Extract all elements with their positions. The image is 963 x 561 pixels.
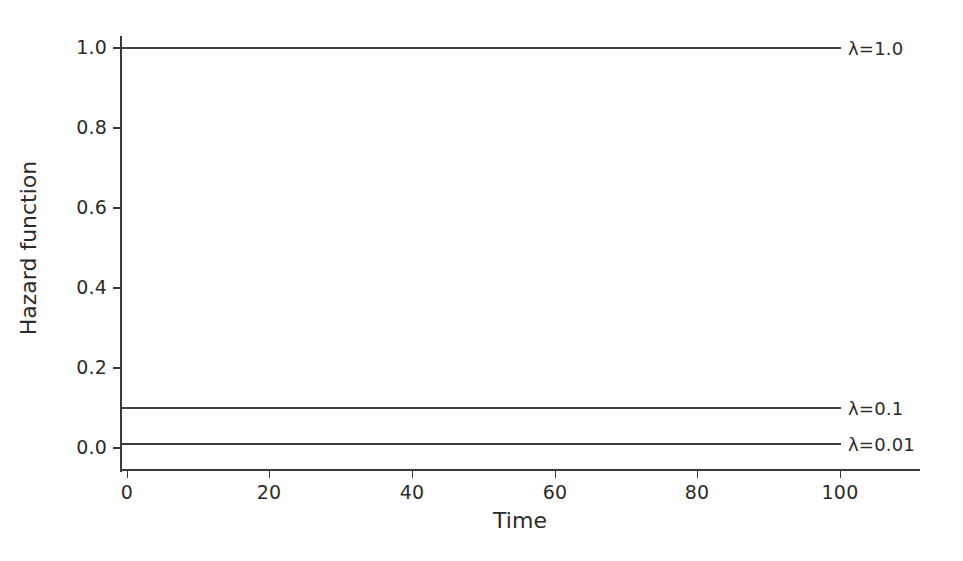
y-tick-mark: [113, 207, 121, 208]
hazard-function-chart: 1.0 0.8 0.6 0.4 0.2 0.0 0 20 40 60 80 10…: [0, 0, 963, 561]
y-tick-label: 0.0: [61, 436, 107, 458]
x-tick-label: 40: [382, 481, 442, 503]
x-tick-label: 100: [810, 481, 870, 503]
x-tick-mark: [412, 469, 413, 478]
series-line-lambda-0-1: [121, 407, 841, 409]
y-tick-mark: [113, 47, 121, 48]
x-tick-mark: [269, 469, 270, 478]
series-label-lambda-0-1: λ=0.1: [848, 398, 903, 419]
series-line-lambda-0-01: [121, 443, 841, 445]
y-tick-mark: [113, 287, 121, 288]
x-axis-title: Time: [120, 508, 920, 533]
x-tick-mark: [555, 469, 556, 478]
series-label-lambda-0-01: λ=0.01: [848, 434, 915, 455]
x-tick-label: 0: [97, 481, 157, 503]
y-tick-label: 0.8: [61, 116, 107, 138]
x-tick-label: 80: [667, 481, 727, 503]
y-tick-label: 0.2: [61, 356, 107, 378]
x-tick-mark: [697, 469, 698, 478]
y-tick-label: 1.0: [61, 36, 107, 58]
series-line-lambda-1: [121, 47, 841, 49]
x-tick-mark: [840, 469, 841, 478]
y-tick-label: 0.4: [61, 276, 107, 298]
y-tick-mark: [113, 447, 121, 448]
y-axis-title: Hazard function: [16, 161, 41, 336]
y-tick-label: 0.6: [61, 196, 107, 218]
x-tick-label: 60: [525, 481, 585, 503]
x-tick-mark: [127, 469, 128, 478]
y-tick-mark: [113, 127, 121, 128]
y-tick-mark: [113, 367, 121, 368]
x-tick-label: 20: [239, 481, 299, 503]
series-label-lambda-1: λ=1.0: [848, 38, 903, 59]
x-axis-line: [120, 469, 920, 471]
